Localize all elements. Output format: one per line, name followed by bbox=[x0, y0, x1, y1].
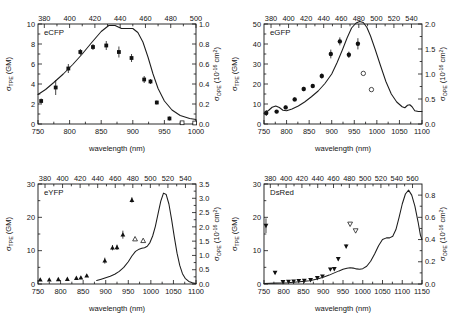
dsred-xticklabel: 1050 bbox=[374, 287, 390, 296]
egfp-xticklabel: 900 bbox=[326, 127, 338, 136]
panel-egfp: 7508008509009501000105011003804004204404… bbox=[226, 0, 452, 160]
egfp-yticklabel: 0 bbox=[257, 120, 261, 129]
dsred-yticklabel-right: 0.2 bbox=[425, 257, 435, 266]
egfp-datapoint bbox=[356, 42, 360, 46]
ecfp-top-xticklabel: 480 bbox=[165, 14, 177, 23]
eyfp-top-xticklabel: 480 bbox=[127, 174, 139, 183]
eyfp-datapoint bbox=[84, 273, 89, 277]
ecfp-yticklabel-right: 0.0 bbox=[199, 120, 209, 129]
dsred-yticklabel: 0 bbox=[257, 280, 261, 289]
egfp-yaxis-title: σTPE (GM) bbox=[230, 56, 240, 91]
dsred-plot: 7508008509009501000105011001150380400420… bbox=[226, 160, 452, 320]
ecfp-yaxis-title-right: σOPE (10-16 cm2) bbox=[212, 47, 222, 101]
egfp-top-xticklabel: 440 bbox=[318, 14, 330, 23]
eyfp-xticklabel: 800 bbox=[54, 287, 66, 296]
dsred-yticklabel-right: 0.8 bbox=[425, 191, 435, 200]
dsred-series-filled-triangle-down bbox=[264, 218, 349, 284]
ecfp-yaxis-title: σTPE (GM) bbox=[4, 56, 14, 91]
dsred-xticklabel: 800 bbox=[278, 287, 290, 296]
egfp-xticklabel: 1000 bbox=[369, 127, 385, 136]
eyfp-series-open-triangle-up bbox=[133, 237, 146, 243]
eyfp-yticklabel-right: 2.5 bbox=[199, 208, 209, 217]
dsred-xticklabel: 1100 bbox=[394, 287, 410, 296]
egfp-yticklabel: 40 bbox=[253, 40, 261, 49]
eyfp-xticklabel: 900 bbox=[100, 287, 112, 296]
egfp-plot: 7508008509009501000105011003804004204404… bbox=[226, 0, 452, 160]
dsred-top-xticklabel: 480 bbox=[343, 174, 355, 183]
eyfp-datapoint bbox=[120, 232, 125, 236]
eyfp-datapoint bbox=[56, 277, 61, 281]
eyfp-yticklabel-right: 1.0 bbox=[199, 251, 209, 260]
eyfp-yticklabel: 0 bbox=[31, 280, 35, 289]
ecfp-yticklabel-right: 0.4 bbox=[199, 80, 209, 89]
panel-ecfp: 7508008509009501000380400420440460480500… bbox=[0, 0, 226, 160]
egfp-top-xticklabel: 540 bbox=[405, 14, 417, 23]
dsred-yticklabel-right: 0.0 bbox=[425, 280, 435, 289]
eyfp-datapoint bbox=[102, 258, 107, 262]
dsred-top-xticklabel: 540 bbox=[391, 174, 403, 183]
egfp-panel-label: eGFP bbox=[270, 28, 290, 37]
egfp-top-xticklabel: 520 bbox=[388, 14, 400, 23]
egfp-datapoint bbox=[292, 97, 296, 101]
dsred-xticklabel: 950 bbox=[337, 287, 349, 296]
egfp-top-xticklabel: 400 bbox=[282, 14, 294, 23]
egfp-datapoint-open bbox=[361, 71, 365, 75]
eyfp-top-xticklabel: 460 bbox=[109, 174, 121, 183]
egfp-datapoint bbox=[338, 39, 342, 43]
egfp-yticklabel-right: 0.0 bbox=[425, 120, 435, 129]
egfp-datapoint bbox=[347, 53, 351, 57]
eyfp-yticklabel-right: 0.0 bbox=[199, 280, 209, 289]
eyfp-xaxis-title: wavelength (nm) bbox=[88, 304, 146, 313]
dsred-top-xticklabel: 560 bbox=[406, 174, 418, 183]
dsred-yticklabel-right: 0.6 bbox=[425, 213, 435, 222]
ecfp-yticklabel: 6 bbox=[31, 60, 35, 69]
ecfp-datapoint bbox=[39, 99, 43, 103]
ecfp-datapoint bbox=[142, 78, 146, 82]
ecfp-datapoint bbox=[78, 50, 82, 54]
ecfp-top-xticklabel: 440 bbox=[114, 14, 126, 23]
egfp-yaxis-title-right: σOPE (10-16 cm2) bbox=[438, 47, 448, 101]
eyfp-yticklabel-right: 0.5 bbox=[199, 265, 209, 274]
egfp-xticklabel: 950 bbox=[348, 127, 360, 136]
dsred-datapoint bbox=[332, 267, 337, 271]
ecfp-top-xticklabel: 460 bbox=[139, 14, 151, 23]
egfp-top-xticklabel: 420 bbox=[300, 14, 312, 23]
egfp-xticklabel: 850 bbox=[303, 127, 315, 136]
eyfp-series-filled-triangle-up bbox=[38, 197, 134, 281]
dsred-datapoint bbox=[336, 257, 341, 261]
dsred-ope-spectrum-line bbox=[264, 190, 422, 283]
dsred-datapoint-open bbox=[353, 229, 358, 233]
egfp-xticklabel: 1050 bbox=[391, 127, 407, 136]
ecfp-datapoint bbox=[149, 80, 153, 84]
ecfp-top-xticklabel: 380 bbox=[38, 14, 50, 23]
panel-dsred: 7508008509009501000105011001150380400420… bbox=[226, 160, 452, 320]
eyfp-datapoint bbox=[110, 245, 115, 249]
ecfp-yticklabel-right: 0.8 bbox=[199, 40, 209, 49]
dsred-top-xticklabel: 520 bbox=[375, 174, 387, 183]
ecfp-ope-spectrum-line bbox=[38, 26, 196, 120]
egfp-xaxis-title: wavelength (nm) bbox=[314, 144, 372, 153]
ecfp-panel-label: eCFP bbox=[44, 28, 64, 37]
dsred-top-xticklabel: 500 bbox=[359, 174, 371, 183]
ecfp-xticklabel: 800 bbox=[63, 127, 75, 136]
egfp-yticklabel-right: 2.0 bbox=[425, 20, 435, 29]
eyfp-axes-frame bbox=[38, 184, 196, 284]
ecfp-axes-frame bbox=[38, 24, 196, 124]
dsred-xaxis-title: wavelength (nm) bbox=[314, 304, 372, 313]
dsred-xticklabel: 1000 bbox=[355, 287, 371, 296]
eyfp-panel-label: eYFP bbox=[44, 188, 64, 197]
dsred-top-xticklabel: 400 bbox=[280, 174, 292, 183]
eyfp-datapoint-open bbox=[141, 238, 146, 242]
egfp-datapoint bbox=[274, 109, 278, 113]
ecfp-yticklabel: 0 bbox=[31, 120, 35, 129]
dsred-datapoint-open bbox=[348, 222, 353, 226]
egfp-yticklabel: 10 bbox=[253, 100, 261, 109]
eyfp-xticklabel: 1000 bbox=[143, 287, 159, 296]
eyfp-datapoint bbox=[78, 275, 83, 279]
ecfp-xticklabel: 950 bbox=[158, 127, 170, 136]
eyfp-top-xticklabel: 500 bbox=[144, 174, 156, 183]
figure-root: 7508008509009501000380400420440460480500… bbox=[0, 0, 452, 320]
ecfp-top-xticklabel: 400 bbox=[63, 14, 75, 23]
egfp-datapoint bbox=[329, 52, 333, 56]
egfp-yticklabel-right: 1.5 bbox=[425, 45, 435, 54]
